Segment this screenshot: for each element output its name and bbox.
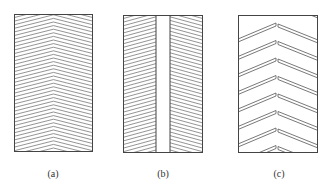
caption-b: (b) [143, 168, 183, 179]
chevron-hatch-pattern-a [14, 14, 93, 152]
panel-b [123, 15, 203, 153]
panel-a [14, 14, 93, 152]
caption-a: (a) [33, 168, 73, 179]
panel-c [238, 15, 318, 153]
split-chevron-hatch-pattern-b [123, 15, 203, 153]
staggered-groove-pattern-c [238, 15, 318, 153]
caption-c: (c) [259, 168, 299, 179]
